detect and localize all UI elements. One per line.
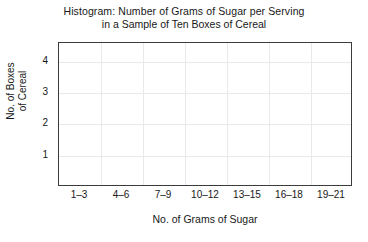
chart-title: Histogram: Number of Grams of Sugar per …: [0, 5, 368, 30]
y-axis-title: No. of Boxes of Cereal: [5, 41, 29, 141]
y-axis-title-line-2: of Cereal: [17, 41, 29, 141]
x-axis-tick-label: 4–6: [113, 189, 130, 201]
x-axis-tick-labels: 1–34–67–910–1213–1516–1819–21: [58, 189, 352, 203]
chart-title-line-2: in a Sample of Ten Boxes of Cereal: [0, 18, 368, 31]
x-axis-tick-label: 10–12: [191, 189, 219, 201]
y-axis-tick-label: 4: [42, 56, 48, 66]
x-axis-tick-label: 19–21: [317, 189, 345, 201]
bars-layer: [59, 43, 351, 185]
x-axis-tick-label: 13–15: [233, 189, 261, 201]
x-axis-title: No. of Grams of Sugar: [58, 213, 352, 225]
x-axis-tick-label: 7–9: [155, 189, 172, 201]
y-axis-title-line-1: No. of Boxes: [5, 41, 17, 141]
x-axis-tick-label: 16–18: [275, 189, 303, 201]
y-axis-tick-label: 1: [42, 150, 48, 160]
y-axis-tick-label: 3: [42, 87, 48, 97]
x-axis-tick-label: 1–3: [71, 189, 88, 201]
y-axis-tick-label: 2: [42, 118, 48, 128]
chart-title-line-1: Histogram: Number of Grams of Sugar per …: [0, 5, 368, 18]
plot-area: [58, 42, 352, 186]
